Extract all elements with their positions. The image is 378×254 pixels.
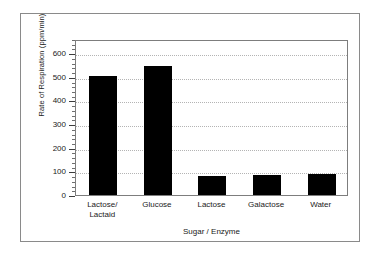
y-axis-major-tick — [69, 196, 75, 197]
bar-slot — [76, 41, 131, 195]
chart-figure: Rate of Respiration (ppm/min) 0100200300… — [0, 0, 378, 254]
y-axis-tick-label: 500 — [32, 74, 66, 82]
bar-slot — [131, 41, 186, 195]
bar[interactable] — [144, 66, 172, 195]
x-axis-tick-label-line: Lactaid — [75, 210, 130, 220]
x-axis-tick-label: Water — [293, 200, 348, 210]
x-axis-tick-label-line: Water — [293, 200, 348, 210]
x-axis-tick-label: Glucose — [130, 200, 185, 210]
x-axis-tick-label-line: Glucose — [130, 200, 185, 210]
y-axis-tick-label: 400 — [32, 97, 66, 105]
x-axis-tick-label: Lactose/Lactaid — [75, 200, 130, 219]
x-axis-tick-label-line: Lactose — [184, 200, 239, 210]
bar[interactable] — [89, 76, 117, 195]
bar-slot — [294, 41, 349, 195]
bar[interactable] — [198, 176, 226, 195]
y-axis-ticks: 0100200300400500600 — [0, 40, 75, 196]
x-axis-tick-label-line: Galactose — [239, 200, 294, 210]
bar[interactable] — [253, 175, 281, 195]
bar-series — [76, 41, 347, 195]
x-axis-tick-label: Lactose — [184, 200, 239, 210]
plot-area — [75, 40, 348, 196]
bar-slot — [240, 41, 295, 195]
x-axis-tick-label: Galactose — [239, 200, 294, 210]
x-axis-title: Sugar / Enzyme — [75, 227, 348, 236]
y-axis-tick-label: 600 — [32, 50, 66, 58]
y-axis-tick-label: 200 — [32, 145, 66, 153]
x-axis-tick-label-line: Lactose/ — [75, 200, 130, 210]
x-axis-tick-labels: Lactose/LactaidGlucoseLactoseGalactoseWa… — [75, 200, 348, 226]
y-axis-tick-label: 300 — [32, 121, 66, 129]
y-axis-tick-label: 100 — [32, 168, 66, 176]
y-axis-tick-label: 0 — [32, 192, 66, 200]
bar[interactable] — [308, 174, 336, 195]
bar-slot — [185, 41, 240, 195]
